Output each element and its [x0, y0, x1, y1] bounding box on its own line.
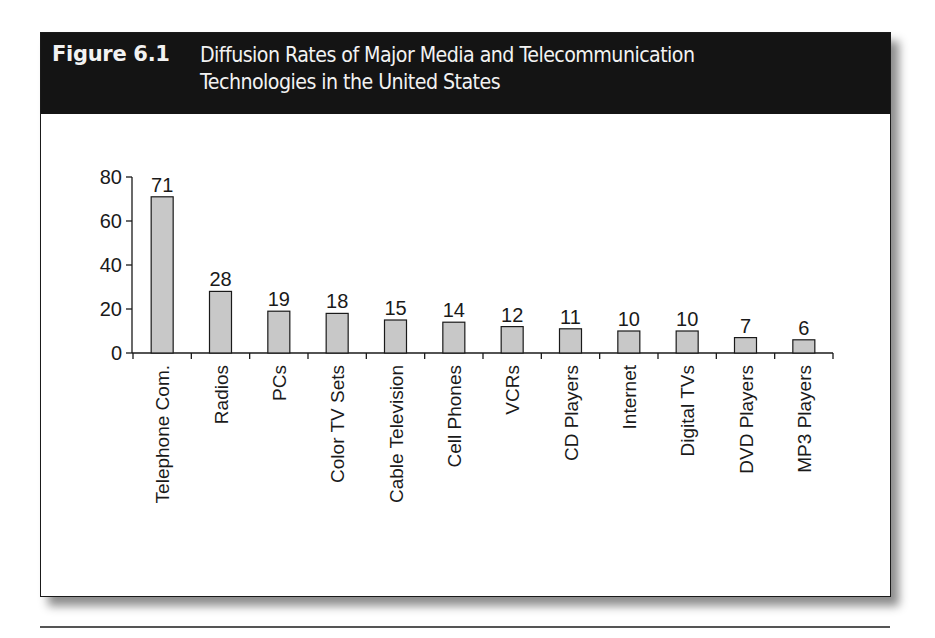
data-label: 10 [618, 308, 640, 330]
x-category-label: Cell Phones [444, 365, 465, 467]
bar [560, 329, 582, 353]
bar-chart: 020406080 Telephone Com.RadiosPCsColor T… [0, 0, 935, 638]
data-label: 6 [798, 317, 809, 339]
bar [618, 331, 640, 353]
bar [676, 331, 698, 353]
x-category-label: VCRs [502, 365, 523, 415]
x-axis: Telephone Com.RadiosPCsColor TV SetsCabl… [132, 353, 833, 503]
bar [151, 197, 173, 353]
x-category-label: Telephone Com. [152, 365, 173, 503]
data-label: 28 [209, 268, 231, 290]
x-category-label: MP3 Players [794, 365, 815, 473]
y-tick-label: 80 [100, 166, 122, 188]
y-tick-label: 20 [100, 298, 122, 320]
bottom-rule [40, 626, 890, 628]
y-tick-label: 0 [111, 342, 122, 364]
x-category-label: PCs [269, 365, 290, 401]
bar [793, 340, 815, 353]
bar [268, 311, 290, 353]
bar [501, 327, 523, 353]
y-axis: 020406080 [100, 166, 132, 364]
bars: 7128191815141211101076 [151, 174, 815, 353]
bar [385, 320, 407, 353]
data-label: 15 [384, 297, 406, 319]
bar [443, 322, 465, 353]
x-category-label: Internet [619, 364, 640, 429]
x-category-label: Radios [211, 365, 232, 424]
y-tick-label: 40 [100, 254, 122, 276]
data-label: 12 [501, 304, 523, 326]
data-label: 14 [443, 299, 465, 321]
data-label: 18 [326, 290, 348, 312]
x-category-label: Cable Television [386, 365, 407, 503]
data-label: 19 [268, 288, 290, 310]
x-category-label: CD Players [561, 365, 582, 461]
x-category-label: DVD Players [736, 365, 757, 474]
x-category-label: Digital TVs [677, 365, 698, 457]
bar [326, 313, 348, 353]
data-label: 71 [151, 174, 173, 196]
bar [210, 291, 232, 353]
bar [735, 338, 757, 353]
x-category-label: Color TV Sets [327, 365, 348, 483]
data-label: 7 [740, 315, 751, 337]
data-label: 10 [676, 308, 698, 330]
data-label: 11 [560, 306, 581, 328]
y-tick-label: 60 [100, 210, 122, 232]
